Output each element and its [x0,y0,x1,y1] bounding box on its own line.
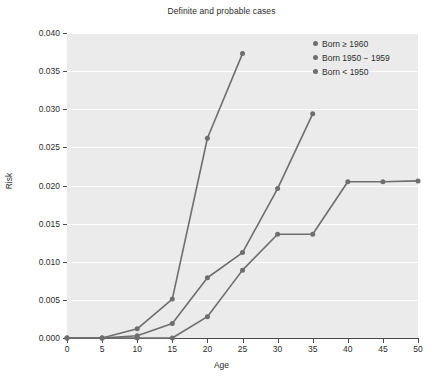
x-tick-label: 45 [371,344,395,354]
x-tick-mark [137,339,138,343]
legend-marker-icon [313,41,318,46]
x-axis-line [67,338,419,339]
x-tick-mark [418,339,419,343]
y-tick-label: 0.020 [14,181,60,191]
y-tick-mark [63,224,67,225]
y-tick-mark [63,71,67,72]
x-tick-label: 30 [266,344,290,354]
y-tick-label: 0.005 [14,295,60,305]
x-tick-label: 0 [55,344,79,354]
x-tick-label: 35 [301,344,325,354]
x-tick-mark [383,339,384,343]
y-tick-label: 0.025 [14,142,60,152]
x-tick-mark [313,339,314,343]
y-tick-mark [63,109,67,110]
y-tick-mark [63,262,67,263]
x-tick-label: 10 [125,344,149,354]
x-tick-mark [67,339,68,343]
legend-marker-icon [313,55,318,60]
x-tick-label: 15 [160,344,184,354]
legend-marker-icon [313,69,318,74]
legend-item: Born < 1950 [313,66,390,77]
y-tick-mark [63,300,67,301]
legend-label: Born < 1950 [322,67,369,77]
risk-by-age-chart: Definite and probable cases 0.0000.0050.… [0,0,443,387]
x-tick-label: 20 [195,344,219,354]
legend-label: Born 1950 − 1959 [322,53,390,63]
y-tick-label: 0.040 [14,28,60,38]
y-tick-mark [63,33,67,34]
x-tick-mark [348,339,349,343]
x-tick-label: 40 [336,344,360,354]
chart-legend: Born ≥ 1960Born 1950 − 1959Born < 1950 [313,38,390,77]
y-tick-mark [63,186,67,187]
x-tick-mark [243,339,244,343]
legend-item: Born ≥ 1960 [313,38,390,49]
x-tick-label: 25 [231,344,255,354]
legend-label: Born ≥ 1960 [322,39,368,49]
y-tick-label: 0.000 [14,333,60,343]
y-tick-label: 0.035 [14,66,60,76]
y-tick-label: 0.010 [14,257,60,267]
x-tick-mark [102,339,103,343]
y-tick-mark [63,147,67,148]
legend-item: Born 1950 − 1959 [313,52,390,63]
x-tick-mark [172,339,173,343]
y-tick-label: 0.015 [14,219,60,229]
y-tick-label: 0.030 [14,104,60,114]
x-axis-title: Age [0,360,443,370]
y-axis-title: Risk [4,151,14,211]
x-tick-mark [207,339,208,343]
x-tick-label: 5 [90,344,114,354]
x-tick-label: 50 [406,344,430,354]
x-tick-mark [278,339,279,343]
